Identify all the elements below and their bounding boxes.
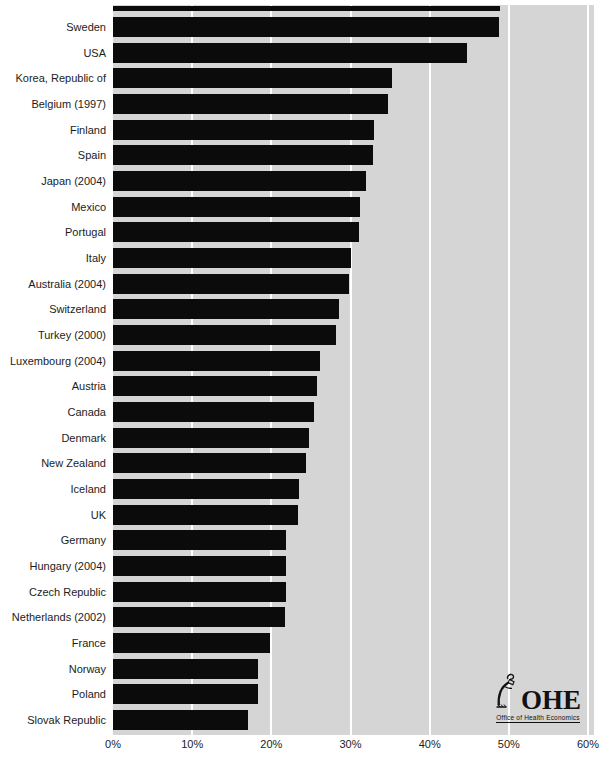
bar-turkey-2000-	[113, 325, 336, 345]
category-label: UK	[0, 508, 106, 522]
bar-netherlands-2002-	[113, 607, 285, 627]
bar-finland	[113, 120, 374, 140]
bar-hungary-2004-	[113, 556, 286, 576]
category-label: Sweden	[0, 20, 106, 34]
ohe-acronym: OHE	[521, 687, 581, 713]
bar-canada	[113, 402, 314, 422]
category-label: USA	[0, 46, 106, 60]
gridline-30%	[350, 5, 352, 735]
ohe-logo-lockup: OHE	[495, 673, 581, 713]
gridline-50%	[508, 5, 510, 735]
bar-portugal	[113, 222, 359, 242]
bar-switzerland	[113, 299, 339, 319]
bar-austria	[113, 376, 317, 396]
category-label: Korea, Republic of	[0, 71, 106, 85]
bar-korea-republic-of	[113, 68, 392, 88]
plot-area: OHE Office of Health Economics	[113, 5, 594, 735]
x-tick-label: 40%	[419, 738, 441, 750]
category-label: Hungary (2004)	[0, 559, 106, 573]
category-label: Switzerland	[0, 302, 106, 316]
gridline-60%	[587, 5, 589, 735]
category-label: Czech Republic	[0, 585, 106, 599]
category-label: France	[0, 636, 106, 650]
bar-australia-2004-	[113, 274, 349, 294]
gridline-40%	[429, 5, 431, 735]
category-label: Finland	[0, 123, 106, 137]
ohe-logo: OHE Office of Health Economics	[488, 673, 588, 723]
lamplighter-icon	[495, 673, 521, 713]
bar-slovak-republic	[113, 710, 248, 730]
bar-belgium-1997-	[113, 94, 388, 114]
x-tick-label: 0%	[105, 738, 121, 750]
category-label: Japan (2004)	[0, 174, 106, 188]
bar-germany	[113, 530, 286, 550]
x-tick-label: 50%	[498, 738, 520, 750]
chart-canvas: SwedenUSAKorea, Republic ofBelgium (1997…	[0, 0, 602, 764]
bar-new-zealand	[113, 453, 306, 473]
category-label: Italy	[0, 251, 106, 265]
bar-france	[113, 633, 270, 653]
bar-poland	[113, 684, 258, 704]
category-label: Belgium (1997)	[0, 97, 106, 111]
bar-mexico	[113, 197, 360, 217]
x-tick-label: 20%	[260, 738, 282, 750]
category-label: Poland	[0, 687, 106, 701]
bar-sweden	[113, 17, 499, 37]
category-label: Canada	[0, 405, 106, 419]
bar-norway	[113, 659, 258, 679]
category-label: Norway	[0, 662, 106, 676]
category-label: New Zealand	[0, 456, 106, 470]
category-label: Mexico	[0, 200, 106, 214]
category-label: Slovak Republic	[0, 713, 106, 727]
category-label: Denmark	[0, 431, 106, 445]
bar-czech-republic	[113, 582, 286, 602]
partial-top-bar	[113, 6, 500, 11]
bar-uk	[113, 505, 298, 525]
category-label: Spain	[0, 148, 106, 162]
x-tick-label: 10%	[181, 738, 203, 750]
category-label: Netherlands (2002)	[0, 610, 106, 624]
bar-italy	[113, 248, 351, 268]
bar-denmark	[113, 428, 309, 448]
category-label: Turkey (2000)	[0, 328, 106, 342]
x-axis: 0%10%20%30%40%50%60%	[113, 738, 594, 760]
category-label: Luxembourg (2004)	[0, 354, 106, 368]
category-label: Germany	[0, 533, 106, 547]
category-labels-column: SwedenUSAKorea, Republic ofBelgium (1997…	[0, 5, 106, 735]
category-label: Portugal	[0, 225, 106, 239]
x-tick-label: 30%	[339, 738, 361, 750]
x-tick-label: 60%	[577, 738, 599, 750]
bar-spain	[113, 145, 373, 165]
bar-luxembourg-2004-	[113, 351, 320, 371]
category-label: Austria	[0, 379, 106, 393]
ohe-caption: Office of Health Economics	[496, 714, 579, 723]
bar-usa	[113, 43, 467, 63]
category-label: Iceland	[0, 482, 106, 496]
category-label: Australia (2004)	[0, 277, 106, 291]
bar-japan-2004-	[113, 171, 366, 191]
bar-iceland	[113, 479, 299, 499]
